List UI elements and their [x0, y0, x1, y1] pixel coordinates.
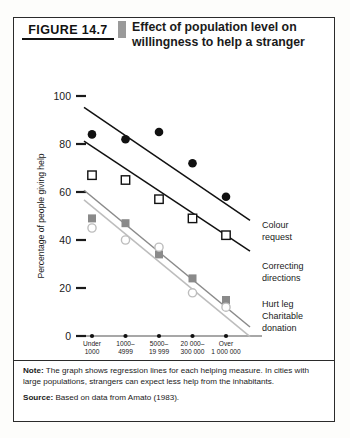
data-point	[88, 130, 97, 139]
x-axis-tick-label: 19 999	[149, 348, 170, 355]
data-point	[155, 128, 164, 137]
source-label: Source:	[23, 393, 53, 402]
regression-line	[84, 200, 250, 337]
y-axis-tick-label: 20	[59, 282, 71, 294]
data-point	[222, 231, 230, 239]
figure-number: FIGURE 14.7	[22, 23, 114, 40]
x-axis-tick	[190, 334, 194, 338]
data-point	[121, 236, 129, 244]
data-point	[155, 243, 163, 251]
y-axis-tick-label: 60	[59, 186, 71, 198]
x-axis-tick	[123, 334, 127, 338]
series-label: Hurt leg	[262, 299, 294, 309]
data-point	[122, 219, 130, 227]
data-point	[88, 224, 96, 232]
x-axis-tick-label: 5000–	[150, 340, 169, 347]
footer-divider	[14, 360, 334, 361]
data-point	[121, 135, 130, 144]
y-axis-title: Percentage of people giving help	[36, 153, 46, 278]
series-label: donation	[262, 323, 297, 333]
figure-accent-bar	[118, 21, 126, 38]
figure-source: Source: Based on data from Amato (1983).	[23, 393, 325, 404]
figure-note: Note: The graph shows regression lines f…	[23, 366, 325, 387]
x-axis-tick-label: 20 000–	[181, 340, 205, 347]
x-axis-tick-label: 4999	[118, 348, 133, 355]
data-point	[222, 193, 231, 202]
data-point	[188, 159, 197, 168]
data-point	[222, 303, 230, 311]
figure-title: Effect of population level on willingnes…	[132, 20, 328, 49]
data-point	[155, 195, 163, 203]
y-axis-tick-label: 80	[59, 138, 71, 150]
figure-container: FIGURE 14.7 Effect of population level o…	[13, 17, 335, 422]
series-label: Colour	[262, 220, 289, 230]
x-axis-tick-label: 1000	[85, 348, 100, 355]
x-axis-tick-label: Under	[83, 340, 102, 347]
x-axis-tick-label: 1 000 000	[211, 348, 241, 355]
figure-footer: Note: The graph shows regression lines f…	[14, 360, 334, 410]
data-point	[88, 214, 96, 222]
regression-line	[84, 107, 250, 220]
x-axis-tick-label: 300 000	[181, 348, 205, 355]
y-axis-title-text: Percentage of people giving help	[36, 153, 46, 278]
x-axis-tick-label: 1000–	[116, 340, 135, 347]
scatter-chart: 020406080100Percentage of people giving …	[14, 58, 334, 358]
source-text: Based on data from Amato (1983).	[55, 393, 179, 402]
series-label: Charitable	[262, 311, 303, 321]
x-axis-tick	[224, 334, 228, 338]
y-axis-tick-label: 40	[59, 234, 71, 246]
x-axis-tick	[157, 334, 161, 338]
note-label: Note:	[23, 366, 44, 375]
y-axis-tick-label: 0	[65, 330, 71, 342]
series-label: directions	[262, 273, 301, 283]
x-axis-tick	[90, 334, 94, 338]
data-point	[188, 289, 196, 297]
data-point	[121, 176, 129, 184]
data-point	[189, 274, 197, 282]
series-label: Correcting	[262, 261, 304, 271]
data-point	[188, 214, 196, 222]
figure-header: FIGURE 14.7 Effect of population level o…	[14, 18, 334, 56]
y-axis-tick-label: 100	[53, 90, 71, 102]
x-axis-tick-label: Over	[219, 340, 234, 347]
data-point	[88, 171, 96, 179]
series-label: request	[262, 232, 293, 242]
chart-plot-area: 020406080100Percentage of people giving …	[14, 58, 334, 358]
note-text: The graph shows regression lines for eac…	[23, 366, 309, 386]
